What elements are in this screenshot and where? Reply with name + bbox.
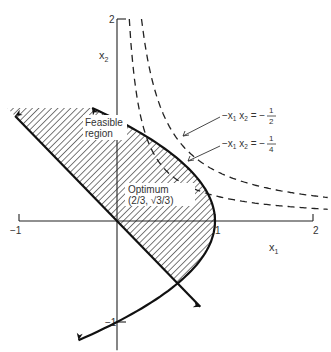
svg-text:−x1 x2 = −: −x1 x2 = −	[222, 138, 265, 150]
x-tick-label: 2	[313, 225, 319, 236]
feasible-region-diagram: −11221−1 x1 x2 Feasible region Optimum (…	[0, 0, 331, 352]
feasible-region-label-line1: Feasible	[85, 117, 123, 128]
leader-arrow-half	[183, 117, 220, 136]
svg-text:1: 1	[269, 134, 274, 143]
svg-text:2: 2	[269, 117, 274, 126]
x2-axis-label: x2	[99, 49, 109, 63]
x1-axis-label: x1	[269, 241, 279, 255]
leader-arrow-quarter	[188, 146, 220, 161]
feasible-region-label-line2: region	[85, 128, 113, 139]
optimum-label-line2: (2/3, √3/3)	[128, 195, 174, 206]
level-curve-quarter-label: −x1 x2 = − 1 4	[222, 134, 276, 154]
optimum-label-line1: Optimum	[128, 184, 169, 195]
svg-text:1: 1	[269, 106, 274, 115]
x-tick-label: 1	[215, 225, 221, 236]
y-tick-label: 2	[109, 14, 115, 25]
level-curve-half-label: −x1 x2 = − 1 2	[222, 106, 276, 126]
x-tick-label: −1	[10, 225, 22, 236]
svg-text:4: 4	[269, 145, 274, 154]
svg-text:−x1 x2 = −: −x1 x2 = −	[222, 110, 265, 122]
